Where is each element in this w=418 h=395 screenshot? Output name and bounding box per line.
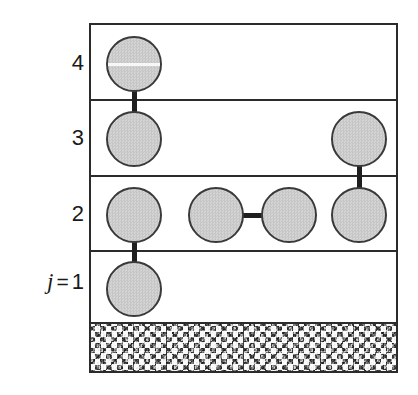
level-label-3-value: 3 [72, 125, 84, 150]
equals-sign: = [54, 270, 71, 293]
atom-layer2-col3[interactable] [261, 187, 317, 243]
atom-layer4-col1[interactable] [106, 36, 162, 92]
atom-layer3-col1[interactable] [106, 111, 162, 167]
level-label-4-value: 4 [72, 50, 84, 75]
atom-layer2-col4[interactable] [331, 187, 387, 243]
level-label-1-value: 1 [72, 269, 84, 294]
atom-scanline-artifact [108, 63, 160, 66]
level-label-1: j=1 [14, 270, 84, 293]
film-box [89, 23, 398, 373]
atom-layer2-col2[interactable] [188, 187, 244, 243]
atom-layer1-col1[interactable] [106, 261, 162, 317]
bond-a2-1-a1-1 [132, 241, 137, 263]
divider-4-3 [91, 99, 396, 101]
level-label-2: 2 [40, 203, 84, 225]
level-label-4: 4 [40, 52, 84, 74]
level-label-2-value: 2 [72, 201, 84, 226]
bond-a4-1-a3-1 [132, 90, 137, 113]
atom-layer3-col4[interactable] [331, 111, 387, 167]
substrate-hatch [91, 322, 396, 373]
level-label-3: 3 [40, 127, 84, 149]
atom-layer2-col1[interactable] [106, 187, 162, 243]
divider-3-2 [91, 175, 396, 177]
bond-a2-2-a2-3 [242, 213, 263, 218]
figure-container: 4 3 2 j=1 [0, 0, 418, 395]
bond-a3-4-a2-4 [357, 165, 362, 189]
divider-2-1 [91, 250, 396, 252]
